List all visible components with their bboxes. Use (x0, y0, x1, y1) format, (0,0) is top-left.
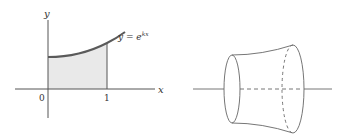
figure-canvas: y x 0 1 y = ekx (0, 0, 341, 139)
shaded-region (48, 43, 107, 89)
curve-label: y = ekx (117, 30, 149, 42)
area-under-curve-graph: y x 0 1 y = ekx (15, 8, 164, 118)
x-axis-label: x (158, 84, 164, 95)
left-end-ellipse (224, 55, 240, 123)
tick-label-1: 1 (104, 93, 110, 103)
curve-label-base: y = e (117, 32, 142, 42)
y-axis-label: y (43, 8, 50, 19)
bottom-profile-curve (232, 123, 293, 133)
curve-label-exponent: kx (142, 30, 150, 37)
solid-of-revolution (193, 45, 332, 133)
top-profile-curve (232, 45, 293, 55)
origin-label: 0 (39, 93, 45, 103)
